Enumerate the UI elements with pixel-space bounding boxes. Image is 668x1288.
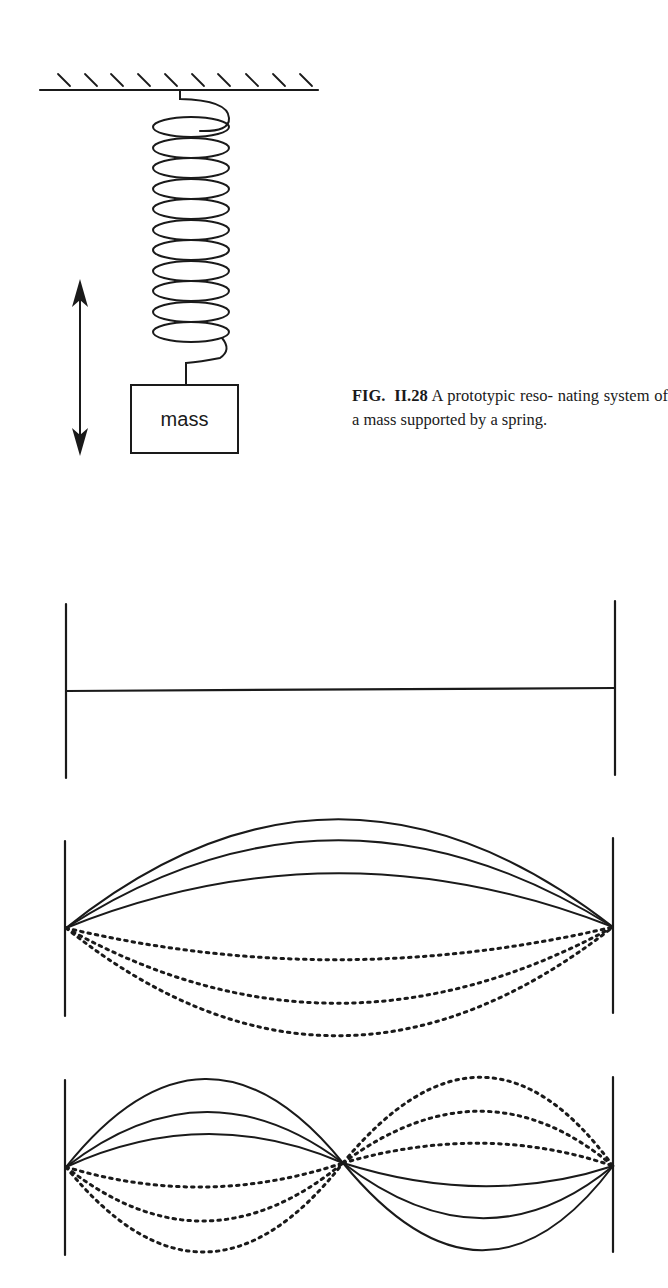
panel-fundamental-mode	[65, 819, 613, 1036]
double-arrow-icon	[72, 279, 88, 456]
mass-label: mass	[161, 408, 209, 430]
panel-second-harmonic	[65, 1077, 613, 1255]
spring	[153, 90, 229, 385]
panel-string-at-rest	[66, 601, 615, 778]
figure-caption: FIG. II.28 A prototypic reso- nating sys…	[352, 384, 668, 432]
resonance-figure: mass	[0, 0, 668, 1288]
ceiling-support	[40, 74, 318, 90]
figure-label: FIG. II.28	[352, 386, 428, 405]
